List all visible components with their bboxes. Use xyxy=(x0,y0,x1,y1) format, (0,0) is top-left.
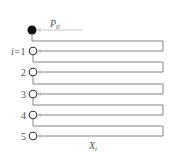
node-label-2: 2 xyxy=(21,67,26,78)
output-label: Xi xyxy=(88,140,97,153)
node-2 xyxy=(29,68,37,76)
node-label-1: i=1 xyxy=(11,46,26,57)
feedback-loop-0 xyxy=(32,34,163,51)
node-1 xyxy=(29,47,37,55)
source-node xyxy=(28,26,37,35)
feedback-loop-2 xyxy=(33,76,163,94)
node-4 xyxy=(29,111,37,119)
source-label: P0 xyxy=(49,18,60,31)
node-label-3: 3 xyxy=(21,89,26,100)
loop-diagram: P0 i=1 2 3 4 5 Xi xyxy=(0,0,175,162)
node-3 xyxy=(29,90,37,98)
node-label-5: 5 xyxy=(21,131,26,142)
feedback-loop-3 xyxy=(33,98,163,115)
feedback-loop-4 xyxy=(33,119,163,136)
feedback-loop-1 xyxy=(33,55,163,72)
node-5 xyxy=(29,132,37,140)
node-label-4: 4 xyxy=(21,110,26,121)
